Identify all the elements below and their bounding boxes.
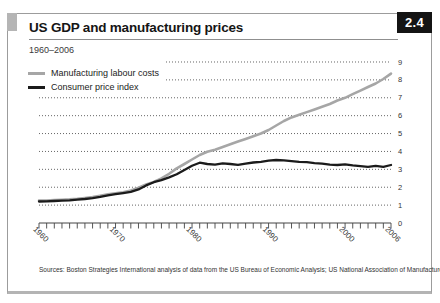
x-tick-label: 1990 [261, 225, 280, 244]
legend-item-consumer-price-index: Consumer price index [28, 80, 163, 94]
corner-tab [7, 13, 17, 31]
x-tick-label: 1980 [184, 225, 203, 244]
y-tick-label: 0 [398, 219, 402, 228]
y-tick-label: 2 [398, 183, 402, 192]
title-rule [29, 39, 398, 40]
legend-swatch-manufacturing-icon [28, 72, 45, 75]
figure-panel: 2.4 US GDP and manufacturing prices 1960… [7, 13, 432, 294]
y-tick-label: 6 [398, 111, 402, 120]
figure-number-badge: 2.4 [397, 12, 432, 33]
legend-swatch-cpi-icon [28, 86, 45, 89]
y-tick-label: 5 [398, 129, 402, 138]
x-tick-label: 1970 [108, 225, 127, 244]
y-tick-label: 4 [398, 147, 402, 156]
legend-item-manufacturing-labour-costs: Manufacturing labour costs [28, 66, 163, 80]
sources-note: Sources: Boston Strategies International… [39, 266, 419, 273]
legend-label-cpi: Consumer price index [51, 82, 139, 92]
chart-title: US GDP and manufacturing prices [29, 20, 243, 35]
y-tick-label: 7 [398, 93, 402, 102]
y-tick-label: 3 [398, 165, 402, 174]
y-tick-label: 1 [398, 201, 402, 210]
y-tick-label: 8 [398, 75, 402, 84]
legend-label-manufacturing: Manufacturing labour costs [51, 68, 159, 78]
chart-legend: Manufacturing labour costs Consumer pric… [28, 64, 163, 96]
x-tick-label: 2006 [383, 225, 402, 244]
x-tick-label: 2000 [337, 225, 356, 244]
y-tick-label: 9 [398, 58, 402, 67]
x-tick-label: 1960 [31, 225, 50, 244]
series-line-consumer-price-index [39, 160, 391, 202]
